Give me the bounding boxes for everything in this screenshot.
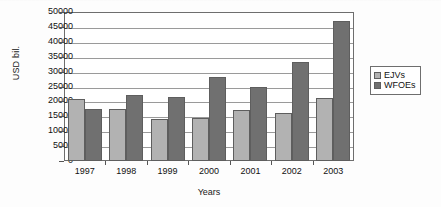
bar-ejvs-2001 (233, 110, 250, 161)
x-axis-tick-label: 2000 (186, 166, 232, 176)
bar-wfoes-2002 (292, 62, 309, 161)
legend-swatch-ejvs-icon (374, 72, 381, 79)
x-axis-tick-mark (105, 161, 106, 165)
x-axis-tick-label: 2003 (310, 166, 356, 176)
bar-group (105, 12, 146, 161)
x-axis-tick-mark (271, 161, 272, 165)
bar-wfoes-1998 (126, 95, 143, 161)
x-axis-tick-mark (188, 161, 189, 165)
bar-wfoes-1997 (85, 109, 102, 161)
legend-label-ejvs: EJVs (384, 71, 405, 80)
legend-label-wfoes: WFOEs (384, 81, 416, 90)
bar-wfoes-2003 (333, 21, 350, 161)
x-axis-title: Years (64, 187, 354, 197)
legend-item-ejvs: EJVs (374, 71, 416, 80)
bars-layer (64, 12, 354, 161)
bar-wfoes-2000 (209, 77, 226, 161)
bar-group (313, 12, 354, 161)
bar-group (188, 12, 229, 161)
x-axis-tick-label: 2001 (227, 166, 273, 176)
bar-chart-figure: USD bil. 5000045000400003500030000250002… (0, 0, 441, 207)
bar-ejvs-2000 (192, 118, 209, 161)
bar-ejvs-2003 (316, 98, 333, 161)
chart-legend: EJVs WFOEs (370, 66, 421, 95)
bar-wfoes-1999 (168, 97, 185, 161)
x-axis-tick-label: 2002 (269, 166, 315, 176)
x-axis-tick-mark (313, 161, 314, 165)
bar-wfoes-2001 (250, 87, 267, 161)
bar-group (230, 12, 271, 161)
legend-item-wfoes: WFOEs (374, 81, 416, 90)
y-axis-tick-mark (59, 161, 64, 162)
bar-ejvs-1999 (151, 119, 168, 161)
x-axis-tick-label: 1997 (62, 166, 108, 176)
legend-swatch-wfoes-icon (374, 82, 381, 89)
bar-ejvs-2002 (275, 113, 292, 161)
x-axis-tick-label: 1999 (145, 166, 191, 176)
x-axis-tick-mark (230, 161, 231, 165)
bar-group (271, 12, 312, 161)
bar-ejvs-1998 (109, 109, 126, 161)
bar-group (147, 12, 188, 161)
bar-ejvs-1997 (68, 99, 85, 161)
x-axis-tick-label: 1998 (103, 166, 149, 176)
x-axis-tick-mark (147, 161, 148, 165)
y-axis-title: USD bil. (11, 23, 21, 103)
bar-group (64, 12, 105, 161)
